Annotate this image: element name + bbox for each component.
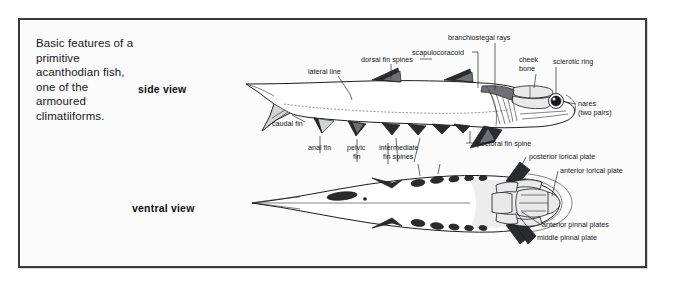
leader-pectoral-fin-spine (466, 131, 474, 143)
label-scapulocoracoid: scapulocoracoid (412, 48, 464, 57)
acanthodian-diagram: lateral line dorsal fin spines branchios… (0, 0, 694, 288)
ventral-vent-dot (363, 197, 367, 201)
leader-ventral-pelvic (418, 164, 420, 176)
label-cheek-bone-2: bone (519, 64, 535, 73)
label-nares-1: nares (578, 99, 596, 108)
side-view-drawing (246, 68, 576, 148)
ventral-view-drawing (252, 162, 572, 244)
figure-panel: Basic features of a primitive acanthodia… (0, 0, 694, 288)
leader-anterior-lorical-plate (552, 171, 558, 196)
label-middle-pinnal-plate: middle pinnal plate (537, 233, 597, 242)
label-pectoral-fin-spine: pectoral fin spine (477, 139, 531, 148)
intermediate-fin-spine-1 (382, 123, 400, 135)
leader-ventral-intermediate (438, 164, 440, 174)
label-anal-fin: anal fin (308, 143, 331, 152)
intermediate-fin-spine-3 (432, 124, 450, 134)
intermediate-fin-spine-2 (408, 124, 426, 135)
label-posterior-lorical-plate: posterior lorical plate (529, 152, 595, 161)
label-lateral-line: lateral line (308, 67, 341, 76)
label-dorsal-fin-spines: dorsal fin spines (361, 55, 413, 64)
label-intermediate-2: fin spines (383, 152, 414, 161)
lateral-plate-left (492, 193, 512, 214)
intermediate-fin-spine-4 (454, 124, 470, 133)
label-cheek-bone-1: cheek (519, 55, 539, 64)
label-sclerotic-ring: sclerotic ring (553, 57, 593, 66)
label-nares-2: (two pairs) (578, 108, 612, 117)
label-anterior-lorical-plate: anterior lorical plate (560, 166, 623, 175)
label-intermediate-1: intermediate (379, 143, 419, 152)
label-pelvic-fin-1: pelvic (347, 143, 366, 152)
eye (551, 96, 561, 106)
label-anterior-pinnal-plates: anterior pinnal plates (542, 220, 609, 229)
label-caudal-fin: caudal fin (272, 119, 303, 128)
label-branchiostegal-rays: branchiostegal rays (448, 33, 511, 42)
eye-highlight (553, 98, 556, 101)
cheek-bone-plate (513, 86, 553, 98)
